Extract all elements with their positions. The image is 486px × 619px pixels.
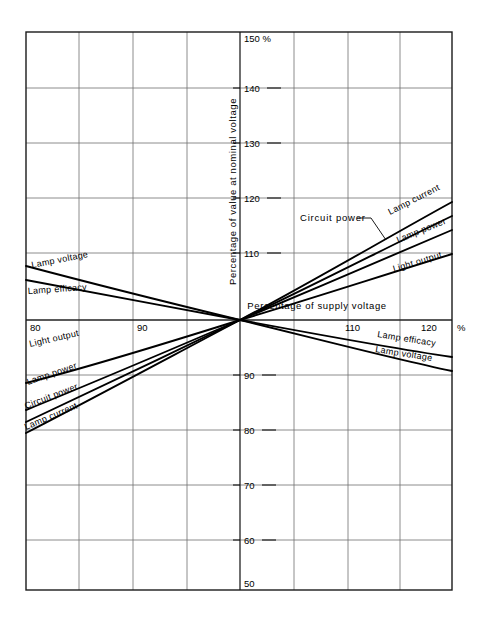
lamp-characteristics-chart: 150 % 140 130 120 110 90 80 70 60 50 Per… bbox=[0, 0, 486, 619]
y-tick-label-130: 130 bbox=[244, 138, 260, 149]
callout-label-circuit-power: Circuit power bbox=[300, 212, 366, 223]
curve-label-upper-left-lamp-efficacy: Lamp efficacy bbox=[27, 282, 87, 296]
y-tick-label-70: 70 bbox=[244, 480, 255, 491]
y-tick-label-50: 50 bbox=[244, 578, 255, 589]
x-axis-percent-symbol: % bbox=[457, 322, 466, 333]
x-tick-label-110: 110 bbox=[345, 322, 360, 333]
curve-lamp-current bbox=[26, 202, 452, 433]
x-tick-label-120: 120 bbox=[421, 322, 437, 333]
y-axis-title: Percentage of value at nominal voltage bbox=[227, 98, 238, 285]
y-tick-label-60: 60 bbox=[244, 535, 255, 546]
x-tick-label-90: 90 bbox=[137, 322, 148, 333]
curve-label-upper-left-lamp-voltage: Lamp voltage bbox=[30, 249, 88, 270]
plot-frame bbox=[26, 32, 452, 590]
y-tick-label-120: 120 bbox=[244, 193, 260, 204]
y-tick-label-150: 150 % bbox=[244, 33, 271, 44]
y-tick-label-140: 140 bbox=[244, 83, 260, 94]
y-tick-label-80: 80 bbox=[244, 425, 255, 436]
y-tick-label-110: 110 bbox=[244, 248, 259, 259]
curve-light-output bbox=[26, 254, 452, 383]
curve-group bbox=[26, 202, 452, 433]
grid-horizontal-lines bbox=[26, 88, 452, 540]
figure-container: 150 % 140 130 120 110 90 80 70 60 50 Per… bbox=[0, 0, 486, 619]
x-tick-label-80: 80 bbox=[30, 322, 41, 333]
y-tick-label-90: 90 bbox=[244, 370, 255, 381]
